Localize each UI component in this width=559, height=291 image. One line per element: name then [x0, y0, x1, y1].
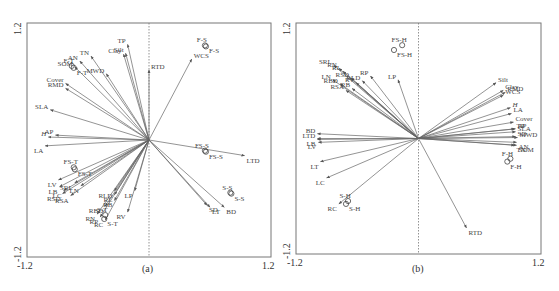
vector-label-h: H: [40, 130, 47, 138]
sample-label-fs-s: FS-S: [209, 153, 223, 161]
vector-rld: [362, 81, 418, 139]
vector-label-la: LA: [34, 147, 43, 155]
sample-label-f-s: F-S: [197, 36, 207, 44]
vector-label-la: LA: [513, 106, 522, 114]
sample-label-f-s: F-S: [209, 47, 219, 55]
vector-la: [419, 113, 512, 138]
sample-label-s-t: S-T: [107, 220, 118, 228]
vector-label-sd: SD: [209, 206, 218, 214]
vector-rc: [339, 139, 419, 204]
vector-label-rsa: RSA: [330, 83, 344, 91]
sample-point-f-h: [505, 159, 510, 164]
vector-la: [45, 140, 149, 146]
sample-label-fs-h: FS-H: [397, 51, 412, 59]
sample-label-fs-h: FS-H: [392, 36, 407, 44]
vector-silt: [419, 83, 497, 139]
vector-label-silt: Silt: [114, 46, 124, 54]
vector-label-rld: RLD: [346, 74, 360, 82]
sample-label-f-t: F-T: [63, 57, 74, 65]
panel-a-biplot: TPClaySiltRTDMWDTNANSOMCoverRMDSLAAPHLAW…: [12, 23, 275, 276]
vector-label-wcs: WCS: [505, 88, 520, 96]
sample-label-s-t: S-T: [97, 206, 108, 214]
panel-b-xtick-right: 1.2: [532, 257, 545, 268]
panel-b-xtick-left: -1.2: [287, 257, 303, 268]
sample-label-fs-t: FS-T: [64, 158, 79, 166]
vector-label-rc: RC: [94, 221, 104, 229]
biplot-figure: TPClaySiltRTDMWDTNANSOMCoverRMDSLAAPHLAW…: [0, 0, 559, 291]
panel-b-ytick-top: 1.2: [281, 23, 292, 36]
vector-wcs: [149, 59, 192, 140]
sample-label-s-s: S-S: [234, 195, 244, 203]
vector-sd: [149, 140, 207, 205]
vector-rmd: [66, 88, 149, 140]
vector-label-rp: RP: [360, 69, 369, 77]
vector-label-mwd: MWD: [86, 67, 104, 75]
vector-label-rv: RV: [116, 213, 125, 221]
sample-label-s-h: S-H: [339, 192, 350, 200]
vector-mwd: [106, 74, 149, 140]
vector-rsa: [71, 140, 149, 196]
vector-label-ltd: LTD: [302, 132, 315, 140]
vector-label-rc: RC: [328, 205, 338, 213]
vector-rsa: [346, 90, 418, 138]
panel-a-xtick-left: -1.2: [17, 260, 33, 271]
vector-tp: [128, 44, 149, 140]
vector-bd: [317, 134, 418, 139]
sample-label-s-h: S-H: [349, 205, 360, 213]
vector-rb: [352, 88, 418, 138]
sample-label-f-h: F-H: [510, 163, 521, 171]
panel-a-xtick-right: 1.2: [262, 260, 275, 271]
vector-label-rtd: RTD: [468, 229, 482, 237]
sample-label-fs-s: FS-S: [195, 142, 209, 150]
vector-label-sla: SLA: [35, 103, 48, 111]
vector-lc: [327, 139, 419, 178]
vector-label-lt: LT: [311, 163, 320, 171]
panel-a-ytick-top: 1.2: [12, 23, 23, 36]
sample-label-f-h: F-H: [502, 150, 513, 158]
vector-label-ltd: LTD: [247, 157, 260, 165]
vector-label-lp: LP: [388, 73, 396, 81]
panel-b-caption: (b): [412, 263, 424, 275]
vector-label-rtd: RTD: [151, 63, 165, 71]
vector-label-tn: TN: [516, 146, 525, 154]
panel-a-caption: (a): [142, 263, 153, 275]
vector-rtd: [419, 139, 467, 228]
vector-label-tp: TP: [117, 37, 125, 45]
vector-rp: [371, 76, 419, 139]
vector-label-rsa: RSA: [55, 197, 69, 205]
sample-point-fs-t: [72, 167, 77, 172]
vector-label-rmd: RMD: [48, 81, 64, 89]
vector-label-lp: LP: [125, 192, 133, 200]
panel-b-biplot: SRLRNRLLNRSDRBDRVRBRSARLDRPLPSiltClayRMD…: [281, 23, 545, 276]
sample-point-fs-h: [391, 47, 396, 52]
sample-label-f-t: F-T: [77, 69, 88, 77]
vector-label-mwd: MWD: [520, 131, 538, 139]
vector-label-lc: LC: [316, 179, 325, 187]
vector-label-wcs: WCS: [194, 52, 209, 60]
sample-label-fs-t: FS-T: [78, 170, 93, 178]
vector-label-ln: LN: [70, 187, 79, 195]
vector-label-lv: LV: [308, 143, 317, 151]
vector-label-tn: TN: [80, 49, 89, 57]
vector-label-bd: BD: [226, 208, 236, 216]
sample-label-s-s: S-S: [222, 184, 232, 192]
vector-wcs: [419, 95, 504, 138]
